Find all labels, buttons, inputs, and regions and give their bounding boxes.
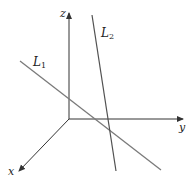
x-axis-label: x xyxy=(8,165,15,178)
y-axis-label: y xyxy=(178,121,186,134)
z-axis-label: z xyxy=(59,7,66,20)
diagram-canvas: z y x L1 L2 xyxy=(0,0,194,187)
x-axis xyxy=(19,119,69,171)
L1-label: L1 xyxy=(32,55,46,70)
line-L1 xyxy=(20,61,161,170)
L2-label: L2 xyxy=(100,26,114,41)
